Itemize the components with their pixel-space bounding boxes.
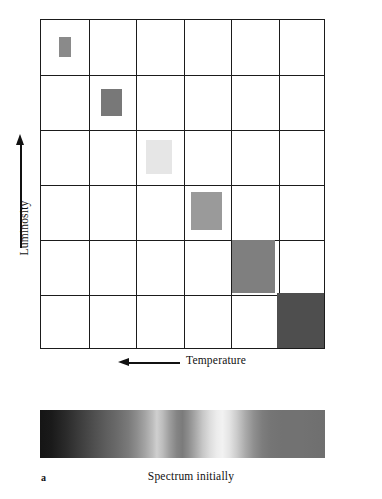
star-block-2 <box>101 89 122 116</box>
grid-vline-1 <box>89 20 90 348</box>
star-block-1 <box>59 37 71 57</box>
grid-hline-4 <box>41 240 324 241</box>
hr-diagram-grid <box>40 19 325 349</box>
temperature-axis-label: Temperature <box>186 354 246 366</box>
luminosity-axis: Luminosity <box>6 130 36 270</box>
grid-vline-4 <box>231 20 232 348</box>
grid-hline-2 <box>41 130 324 131</box>
star-block-5 <box>232 240 275 293</box>
temperature-axis: Temperature <box>118 354 278 374</box>
spectrum-band <box>40 410 325 458</box>
figure-panel-a: Luminosity Temperature a Spectrum initia… <box>0 0 382 499</box>
grid-hline-1 <box>41 75 324 76</box>
grid-vline-2 <box>136 20 137 348</box>
star-block-3 <box>146 140 172 174</box>
grid-vline-3 <box>184 20 185 348</box>
temperature-axis-line <box>128 362 180 364</box>
star-block-4 <box>191 192 222 230</box>
star-block-6 <box>277 293 324 348</box>
spectrum-caption: Spectrum initially <box>0 470 382 482</box>
luminosity-axis-label: Luminosity <box>18 168 30 288</box>
grid-hline-3 <box>41 185 324 186</box>
